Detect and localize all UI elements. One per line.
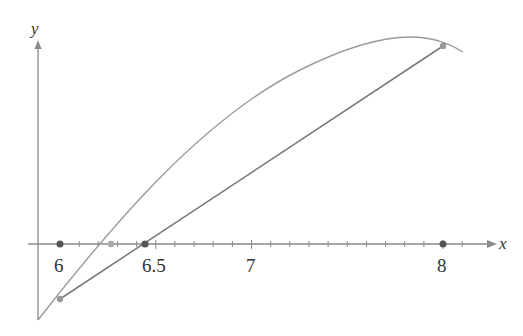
tick-label-8: 8: [437, 255, 447, 276]
point-curve-at-6: [57, 296, 63, 302]
tick-label-6-5: 6.5: [142, 255, 166, 276]
point-secant-x-intercept: [141, 240, 148, 247]
tick-label-6: 6: [54, 255, 64, 276]
x-axis-label: x: [498, 234, 507, 253]
function-curve: [38, 37, 463, 320]
y-axis: y: [29, 19, 42, 320]
y-axis-label: y: [29, 19, 39, 38]
function-graph: y x 6 6.5 7 8: [0, 0, 523, 336]
x-axis-arrow-icon: [487, 240, 497, 248]
point-curve-at-8: [440, 43, 446, 49]
point-x8-on-axis: [440, 241, 447, 248]
tick-label-7: 7: [246, 255, 256, 276]
point-curve-x-intercept: [108, 241, 114, 247]
y-axis-arrow-icon: [35, 40, 42, 49]
x-tick-labels: 6 6.5 7 8: [54, 255, 447, 276]
point-x6-on-axis: [57, 241, 64, 248]
